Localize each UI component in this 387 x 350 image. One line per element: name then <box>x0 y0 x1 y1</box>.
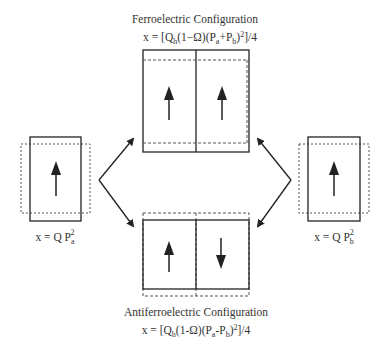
polarization-up-arrow-icon <box>164 241 174 272</box>
polarization-up-arrow-icon <box>51 161 61 196</box>
left-formula: x = Q Pa2 <box>35 228 75 246</box>
ferroelectric-formula: x = [Qh(1−Ω)(Pa+Pb)2]/4 <box>143 30 257 46</box>
ferroelectric-cell <box>143 50 249 152</box>
configuration-diagram: Ferroelectric Configuration x = [Qh(1−Ω)… <box>0 0 387 350</box>
polarization-down-arrow-icon <box>216 238 226 269</box>
right-single-cell <box>299 137 369 221</box>
polarization-up-arrow-icon <box>329 161 339 196</box>
antiferroelectric-title: Antiferroelectric Configuration <box>124 306 268 319</box>
polarization-up-arrow-icon <box>217 86 227 120</box>
antiferroelectric-formula: x = [Qh(1-Ω)(Pa-Pb)2]/4 <box>142 323 251 339</box>
left-single-cell <box>21 137 90 221</box>
polarization-up-arrow-icon <box>164 86 174 120</box>
ferroelectric-title: Ferroelectric Configuration <box>132 13 258 26</box>
left-transition-arrows-icon <box>99 139 133 226</box>
right-formula: x = Q Pb2 <box>314 228 354 246</box>
right-transition-arrows-icon <box>258 139 291 226</box>
antiferroelectric-cell <box>143 213 249 296</box>
